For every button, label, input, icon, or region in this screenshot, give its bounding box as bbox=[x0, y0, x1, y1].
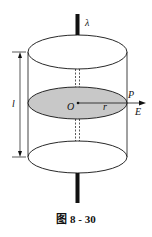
arrow-down-icon bbox=[18, 151, 22, 157]
length-label: l bbox=[12, 98, 15, 109]
lambda-label: λ bbox=[84, 17, 90, 28]
arrow-up-icon bbox=[18, 52, 22, 58]
radius-label: r bbox=[103, 101, 107, 112]
field-label: E bbox=[134, 106, 141, 117]
origin-label: O bbox=[67, 101, 74, 112]
gauss-cylinder-diagram: λ l O r P E 图 8 - 30 bbox=[0, 0, 152, 237]
cylinder-top-face bbox=[28, 35, 127, 69]
figure-caption: 图 8 - 30 bbox=[56, 213, 96, 225]
cylinder-bottom-face bbox=[28, 141, 127, 173]
field-arrow-icon bbox=[139, 101, 146, 106]
point-label: P bbox=[127, 89, 134, 100]
line-charge-bottom bbox=[76, 173, 80, 203]
